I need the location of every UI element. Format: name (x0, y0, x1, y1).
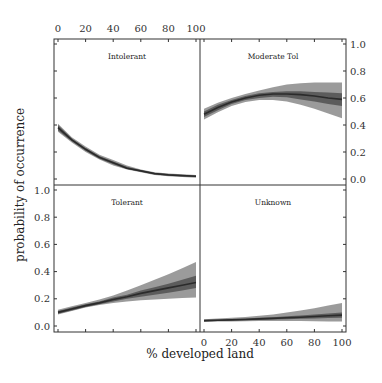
panel-title: Unknown (255, 198, 291, 207)
panel-intolerant (58, 124, 196, 178)
x-tick-label-top: 20 (79, 23, 92, 34)
panel-tolerant (58, 262, 196, 314)
panel-titles: IntolerantModerate TolTolerantUnknown (108, 52, 299, 207)
y-tick-label-left: 0.6 (34, 239, 50, 250)
y-tick-label-right: 1.0 (350, 39, 366, 50)
x-tick-label-bottom: 60 (280, 337, 293, 348)
y-tick-label-right: 0.0 (350, 174, 366, 185)
y-axis-title: probability of occurrence (13, 108, 27, 262)
plot-frame (54, 39, 346, 332)
y-tick-label-right: 0.8 (350, 66, 366, 77)
x-tick-label-top: 100 (186, 23, 205, 34)
panel-title: Intolerant (108, 52, 146, 61)
panel-title: Moderate Tol (248, 52, 299, 61)
x-tick-label-top: 80 (162, 23, 175, 34)
x-axis-title: % developed land (146, 347, 254, 361)
outer-credible-band (58, 124, 196, 178)
y-tick-label-right: 0.6 (350, 93, 366, 104)
x-tick-label-bottom: 80 (308, 337, 321, 348)
y-tick-label-left: 1.0 (34, 185, 50, 196)
y-tick-label-left: 0.8 (34, 212, 50, 223)
x-tick-label-bottom: 40 (253, 337, 266, 348)
x-tick-label-top: 40 (107, 23, 120, 34)
mean-line (58, 128, 196, 177)
x-tick-label-top: 60 (134, 23, 147, 34)
y-tick-label-left: 0.4 (34, 266, 50, 277)
y-tick-label-right: 0.4 (350, 120, 366, 131)
faceted-probability-chart: 0020204040606080801001000.00.00.20.20.40… (0, 0, 382, 383)
x-tick-label-bottom: 100 (332, 337, 351, 348)
panel-title: Tolerant (111, 198, 143, 207)
panel-unknown (204, 303, 342, 322)
x-tick-label-top: 0 (55, 23, 61, 34)
y-tick-label-left: 0.0 (34, 321, 50, 332)
y-tick-label-left: 0.2 (34, 293, 50, 304)
panel-moderate-tol (204, 83, 342, 120)
y-tick-label-right: 0.2 (350, 147, 366, 158)
